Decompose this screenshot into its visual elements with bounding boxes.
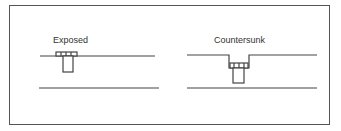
fastener-diagram	[0, 0, 341, 131]
countersunk-top-surface-line	[187, 55, 317, 68]
countersunk-bolt-icon	[230, 63, 248, 83]
exposed-fastener-group	[39, 52, 159, 88]
countersunk-fastener-group	[187, 55, 317, 88]
exposed-bolt-icon	[56, 52, 77, 72]
